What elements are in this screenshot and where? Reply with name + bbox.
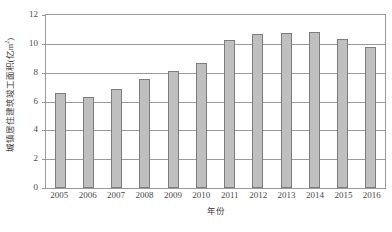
bar-slot	[244, 15, 272, 188]
x-axis-tick-label: 2005	[45, 190, 73, 204]
bar	[224, 40, 235, 188]
bar	[365, 47, 376, 188]
x-axis-tick-label: 2012	[244, 190, 272, 204]
x-axis-title: 年份	[45, 204, 386, 216]
bar-slot	[74, 15, 102, 188]
y-axis-tick-label: 2	[34, 153, 39, 163]
bar	[281, 33, 292, 188]
bar	[83, 97, 94, 188]
x-axis-tick-label: 2015	[329, 190, 357, 204]
y-axis-title-text: 城镇居住建筑竣工面积(亿m2)	[4, 38, 14, 152]
y-axis-tick-label: 6	[34, 96, 39, 106]
bar-slot	[357, 15, 385, 188]
bar-slot	[103, 15, 131, 188]
y-axis-title: 城镇居住建筑竣工面积(亿m2)	[0, 0, 18, 190]
x-axis-tick-label: 2008	[130, 190, 158, 204]
y-axis-tick-mark	[42, 188, 46, 189]
bar-chart-figure: 城镇居住建筑竣工面积(亿m2) 024681012 20052006200720…	[0, 0, 392, 232]
x-axis-tick-label: 2007	[102, 190, 130, 204]
x-axis-tick-label: 2009	[159, 190, 187, 204]
y-axis-tick-label: 12	[29, 9, 38, 19]
bar-slot	[46, 15, 74, 188]
bar	[139, 79, 150, 188]
plot-area	[45, 14, 386, 189]
bar-slot	[187, 15, 215, 188]
bar	[309, 32, 320, 188]
y-axis-tick-label: 4	[34, 124, 39, 134]
bar-slot	[300, 15, 328, 188]
y-axis-title-tail: )	[5, 38, 15, 41]
bar-slot	[216, 15, 244, 188]
x-axis-tick-label: 2013	[272, 190, 300, 204]
bar	[55, 93, 66, 188]
bar-slot	[131, 15, 159, 188]
x-axis-tick-label: 2014	[301, 190, 329, 204]
bar-slot	[272, 15, 300, 188]
y-axis-tick-label: 0	[34, 182, 39, 192]
x-axis-tick-label: 2016	[358, 190, 386, 204]
x-axis-tick-labels: 2005200620072008200920102011201220132014…	[45, 190, 386, 204]
y-axis-title-main: 城镇居住建筑竣工面积(亿m	[5, 44, 15, 152]
x-axis-tick-label: 2006	[73, 190, 101, 204]
bar	[168, 71, 179, 188]
bar-series	[46, 15, 385, 188]
bar-slot	[159, 15, 187, 188]
bar-slot	[329, 15, 357, 188]
bar	[111, 89, 122, 188]
bar	[252, 34, 263, 188]
bar	[337, 39, 348, 188]
y-axis-tick-label: 8	[34, 67, 39, 77]
x-axis-tick-label: 2011	[216, 190, 244, 204]
y-axis-tick-label: 10	[29, 38, 38, 48]
y-axis-tick-labels: 024681012	[18, 0, 42, 232]
x-axis-tick-label: 2010	[187, 190, 215, 204]
bar	[196, 63, 207, 188]
